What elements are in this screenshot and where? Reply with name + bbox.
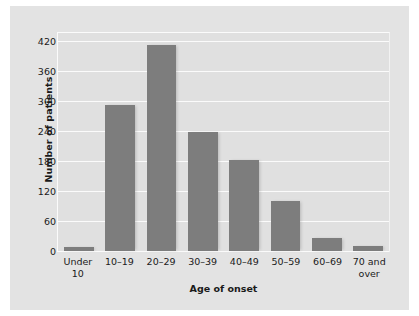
- bar-series: [58, 33, 389, 251]
- y-axis-tick-label: 420: [24, 37, 56, 47]
- y-axis-tick-label: 60: [24, 217, 56, 227]
- y-axis-tick-label: 300: [24, 97, 56, 107]
- y-axis-tick-labels: 060120180240300360420: [24, 32, 56, 252]
- axis-baseline: [58, 251, 389, 253]
- x-axis-tick-label: 20–29: [140, 256, 182, 268]
- y-axis-tick-label: 120: [24, 187, 56, 197]
- bar[interactable]: [188, 132, 218, 251]
- bar[interactable]: [312, 238, 342, 250]
- bar-slot: [265, 33, 306, 251]
- x-axis-tick-label: Under10: [57, 256, 99, 279]
- bar[interactable]: [271, 201, 301, 250]
- bar[interactable]: [147, 45, 177, 250]
- x-axis-tick-label: 70 andover: [348, 256, 390, 279]
- y-axis-tick-label: 180: [24, 157, 56, 167]
- bar-slot: [141, 33, 182, 251]
- x-axis-tick-label: 50–59: [265, 256, 307, 268]
- x-axis-tick-label: 10–19: [99, 256, 141, 268]
- bar-slot: [348, 33, 389, 251]
- bar[interactable]: [229, 160, 259, 250]
- x-axis-title: Age of onset: [57, 283, 390, 294]
- bar[interactable]: [64, 247, 94, 251]
- bar[interactable]: [353, 246, 383, 251]
- y-axis-tick-label: 0: [24, 247, 56, 257]
- x-axis-tick-label: 30–39: [182, 256, 224, 268]
- x-axis-tick-label: 60–69: [307, 256, 349, 268]
- chart-figure: Number of patients 060120180240300360420…: [10, 6, 409, 310]
- bar-slot: [99, 33, 140, 251]
- bar-slot: [182, 33, 223, 251]
- bar-slot: [306, 33, 347, 251]
- bar[interactable]: [105, 105, 135, 251]
- bar-slot: [224, 33, 265, 251]
- y-axis-tick-label: 360: [24, 67, 56, 77]
- y-axis-tick-label: 240: [24, 127, 56, 137]
- bar-slot: [58, 33, 99, 251]
- plot-area: [57, 32, 390, 252]
- x-axis-tick-label: 40–49: [224, 256, 266, 268]
